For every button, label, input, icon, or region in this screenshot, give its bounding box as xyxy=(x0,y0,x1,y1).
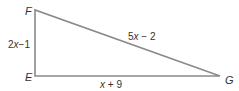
triangle-diagram: F E G 2x−1 5x − 2 x + 9 xyxy=(0,0,239,91)
triangle-efg xyxy=(35,10,220,76)
vertex-label-g: G xyxy=(225,74,234,86)
side-label-eg: x + 9 xyxy=(99,79,122,90)
side-label-ef: 2x−1 xyxy=(8,39,30,50)
vertex-label-f: F xyxy=(25,5,33,17)
side-label-fg: 5x − 2 xyxy=(128,31,156,42)
vertex-label-e: E xyxy=(25,71,33,83)
